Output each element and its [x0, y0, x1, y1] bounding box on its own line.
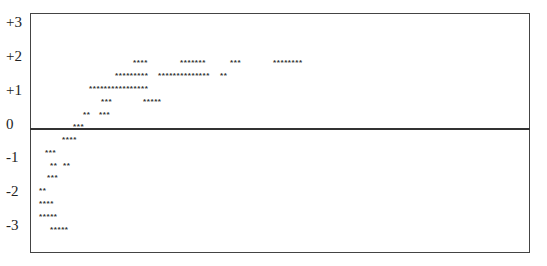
asterisk-group: *** — [101, 98, 112, 106]
plot-frame — [30, 13, 530, 253]
y-tick-label: +1 — [0, 83, 34, 98]
asterisk-group: **** — [133, 59, 148, 67]
asterisk-group: *** — [45, 149, 56, 157]
y-tick-label: -1 — [0, 150, 34, 165]
asterisk-group: ** — [220, 72, 227, 80]
asterisk-group: ***** — [39, 213, 58, 221]
asterisk-group: ******* — [180, 59, 206, 67]
asterisk-group: ***** — [50, 226, 69, 234]
asterisk-group: ** — [63, 162, 70, 170]
y-tick-label: +2 — [0, 49, 34, 64]
asterisk-group: ** — [39, 187, 46, 195]
asterisk-group: ** — [83, 111, 90, 119]
zero-baseline — [30, 128, 530, 130]
asterisk-group: ***** — [143, 98, 162, 106]
y-tick-label: -3 — [0, 218, 34, 233]
asterisk-group: ******** — [273, 59, 303, 67]
asterisk-group: *** — [230, 59, 241, 67]
y-tick-label: -2 — [0, 184, 34, 199]
asterisk-group: ** — [50, 162, 57, 170]
asterisk-group: ************** — [158, 72, 210, 80]
asterisk-group: **** — [62, 136, 77, 144]
y-tick-label: 0 — [0, 117, 34, 132]
asterisk-group: **** — [39, 200, 54, 208]
asterisk-group: ********* — [115, 72, 148, 80]
y-tick-label: +3 — [0, 15, 34, 30]
asterisk-group: *** — [73, 123, 84, 131]
asterisk-group: **************** — [89, 85, 148, 93]
asterisk-group: *** — [47, 174, 58, 182]
asterisk-group: *** — [99, 111, 110, 119]
